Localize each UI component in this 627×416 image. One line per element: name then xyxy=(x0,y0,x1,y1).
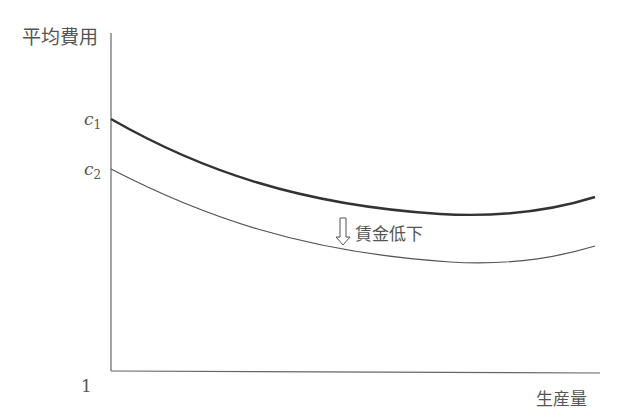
c2-label: c2 xyxy=(84,159,101,182)
c1-label: c1 xyxy=(84,109,101,132)
origin-label: 1 xyxy=(81,376,92,396)
upper-cost-curve xyxy=(111,119,595,215)
y-axis-label: 平均費用 xyxy=(22,26,98,48)
lower-cost-curve xyxy=(111,169,595,263)
x-axis-label: 生産量 xyxy=(536,389,587,409)
down-arrow-icon xyxy=(336,218,350,245)
average-cost-diagram: 平均費用 c1 c2 1 生産量 賃金低下 xyxy=(0,0,627,416)
x-axis xyxy=(111,371,600,373)
wage-decrease-annotation: 賃金低下 xyxy=(355,224,423,244)
